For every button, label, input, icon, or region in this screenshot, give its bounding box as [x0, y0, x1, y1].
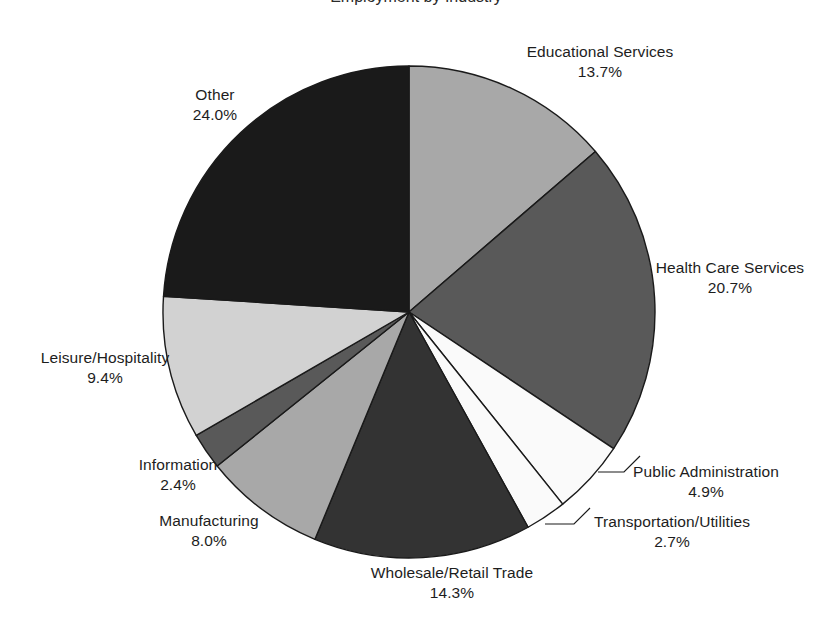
pie-label-percent: 13.7% [527, 62, 674, 82]
pie-label-other: Other24.0% [193, 85, 237, 126]
pie-label-name: Transportation/Utilities [594, 512, 750, 532]
pie-label-leisure-hospitality: Leisure/Hospitality9.4% [41, 348, 170, 389]
pie-label-wholesale-retail-trade: Wholesale/Retail Trade14.3% [371, 563, 533, 604]
pie-label-name: Educational Services [527, 42, 674, 62]
pie-label-name: Manufacturing [159, 511, 259, 531]
pie-label-name: Public Administration [633, 462, 779, 482]
pie-label-public-administration: Public Administration4.9% [633, 462, 779, 503]
pie-label-percent: 24.0% [193, 105, 237, 125]
pie-label-information: Information2.4% [139, 455, 218, 496]
pie-label-percent: 4.9% [633, 482, 779, 502]
pie-label-percent: 20.7% [656, 278, 804, 298]
pie-label-name: Health Care Services [656, 258, 804, 278]
pie-label-name: Leisure/Hospitality [41, 348, 170, 368]
pie-label-name: Information [139, 455, 218, 475]
pie-label-percent: 2.4% [139, 475, 218, 495]
pie-label-percent: 2.7% [594, 532, 750, 552]
pie-label-name: Other [193, 85, 237, 105]
pie-label-percent: 14.3% [371, 583, 533, 603]
pie-label-percent: 9.4% [41, 368, 170, 388]
pie-label-health-care-services: Health Care Services20.7% [656, 258, 804, 299]
pie-chart: Employment by Industry Educational Servi… [0, 0, 832, 627]
pie-label-educational-services: Educational Services13.7% [527, 42, 674, 83]
pie-label-manufacturing: Manufacturing8.0% [159, 511, 259, 552]
pie-label-name: Wholesale/Retail Trade [371, 563, 533, 583]
pie-label-transportation-utilities: Transportation/Utilities2.7% [594, 512, 750, 553]
pie-label-percent: 8.0% [159, 531, 259, 551]
